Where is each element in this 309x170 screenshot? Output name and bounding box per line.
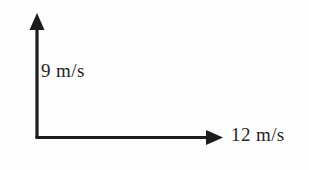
arrow-up-icon xyxy=(30,13,45,30)
vector-diagram: 9 m/s 12 m/s xyxy=(0,0,309,170)
horizontal-vector-label: 12 m/s xyxy=(231,125,285,144)
vertical-vector-label: 9 m/s xyxy=(41,61,85,80)
horizontal-vector-group xyxy=(35,130,223,145)
arrow-right-icon xyxy=(206,130,223,145)
